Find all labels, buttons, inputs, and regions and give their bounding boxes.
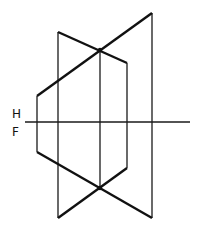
label-f: F [12, 125, 19, 139]
line-ab-top [37, 13, 152, 96]
line-cd-top [58, 32, 127, 63]
line-cd-front [58, 168, 127, 218]
projection-diagram: H F [0, 0, 197, 230]
label-h: H [12, 107, 21, 121]
top-intersection-point [98, 48, 102, 52]
top-view [37, 13, 152, 96]
line-ab-front [37, 152, 152, 218]
front-view [37, 152, 152, 218]
front-intersection-point [98, 186, 102, 190]
projector-lines [37, 13, 152, 218]
